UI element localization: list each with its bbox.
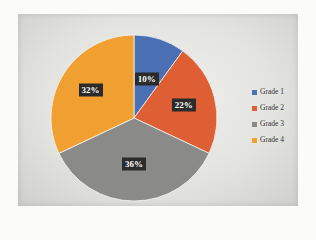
swatch-icon — [252, 138, 257, 143]
data-label: 32% — [79, 84, 103, 97]
data-label: 36% — [122, 157, 146, 170]
legend: Grade 1 Grade 2 Grade 3 Grade 4 — [252, 86, 284, 146]
legend-label: Grade 3 — [260, 118, 284, 130]
legend-label: Grade 4 — [260, 134, 284, 146]
data-label: 10% — [135, 72, 159, 85]
legend-item-grade-2: Grade 2 — [252, 102, 284, 114]
swatch-icon — [252, 90, 257, 95]
legend-label: Grade 1 — [260, 86, 284, 98]
legend-item-grade-3: Grade 3 — [252, 118, 284, 130]
legend-label: Grade 2 — [260, 102, 284, 114]
swatch-icon — [252, 106, 257, 111]
data-label: 22% — [172, 99, 196, 112]
swatch-icon — [252, 122, 257, 127]
legend-item-grade-1: Grade 1 — [252, 86, 284, 98]
legend-item-grade-4: Grade 4 — [252, 134, 284, 146]
